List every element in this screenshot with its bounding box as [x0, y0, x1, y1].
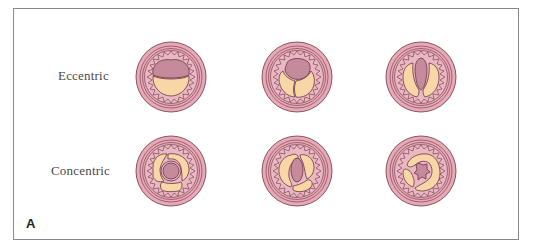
vessel-eccentric-crescent [136, 42, 206, 112]
vessel-eccentric-bilobed [262, 42, 332, 112]
vessel-concentric-oval [262, 136, 332, 206]
vessel-eccentric-slit [386, 42, 456, 112]
vessel-concentric-ring [136, 136, 206, 206]
vessel-diagram [0, 0, 535, 252]
vessel-concentric-stellate [386, 136, 456, 206]
